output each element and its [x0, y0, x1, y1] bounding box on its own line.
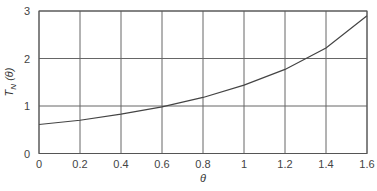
- x-tick-label: 0.8: [195, 158, 210, 170]
- x-tick-label: 1.6: [359, 158, 374, 170]
- tick-labels: 00.20.40.60.811.21.41.60123: [24, 5, 375, 170]
- x-tick-label: 1.2: [277, 158, 292, 170]
- y-tick-label: 0: [24, 148, 30, 160]
- x-tick-label: 0.2: [72, 158, 87, 170]
- x-tick-label: 1.4: [318, 158, 333, 170]
- y-tick-label: 1: [24, 100, 30, 112]
- x-axis-label: θ: [200, 172, 206, 184]
- y-tick-label: 3: [24, 5, 30, 17]
- x-tick-label: 1: [241, 158, 247, 170]
- line-chart: 00.20.40.60.811.21.41.60123 θ TN (θ): [0, 0, 377, 191]
- grid-lines: [39, 11, 367, 154]
- x-tick-label: 0.6: [154, 158, 169, 170]
- svg-text:TN (θ): TN (θ): [3, 67, 18, 96]
- y-tick-label: 2: [24, 53, 30, 65]
- x-tick-label: 0.4: [113, 158, 128, 170]
- y-axis-label: TN (θ): [3, 67, 18, 96]
- x-tick-label: 0: [36, 158, 42, 170]
